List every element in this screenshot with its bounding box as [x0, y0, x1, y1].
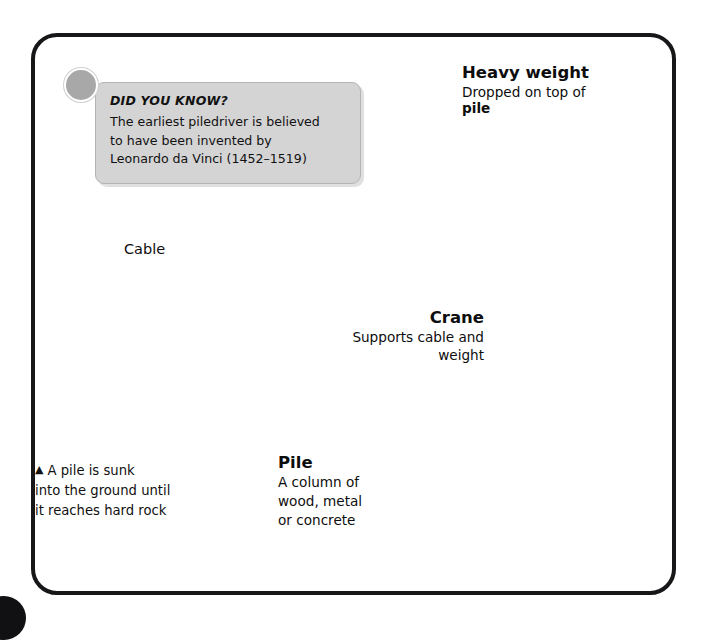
- pile-caption-line-3: it reaches hard rock: [35, 501, 221, 521]
- label-pile-sub-line-2: wood, metal: [278, 493, 408, 511]
- label-heavy-weight-sub-bold: pile: [462, 100, 490, 116]
- label-heavy-weight-heading: Heavy weight: [462, 63, 608, 83]
- did-you-know-line-1: The earliest piledriver is believed: [110, 113, 346, 132]
- pile-caption-line-2: into the ground until: [35, 481, 221, 501]
- label-pile-heading: Pile: [278, 452, 408, 473]
- triangle-marker-icon: ▲: [35, 463, 43, 476]
- label-pile: Pile A column of wood, metal or concrete: [278, 452, 408, 529]
- did-you-know-line-3: Leonardo da Vinci (1452–1519): [110, 150, 346, 169]
- label-heavy-weight-sub: Dropped on top of pile: [462, 84, 608, 117]
- did-you-know-title: DID YOU KNOW?: [110, 93, 346, 108]
- label-cable: Cable: [124, 241, 165, 257]
- label-pile-sub-line-1: A column of: [278, 474, 408, 492]
- pile-caption-line-1: ▲A pile is sunk: [35, 461, 221, 481]
- pile-caption-text-1: A pile is sunk: [47, 463, 134, 478]
- label-crane-sub-line-1: Supports cable and: [338, 329, 484, 346]
- did-you-know-panel: DID YOU KNOW? The earliest piledriver is…: [95, 82, 361, 184]
- label-heavy-weight: Heavy weight Dropped on top of pile: [462, 63, 608, 116]
- label-crane-heading: Crane: [338, 308, 484, 328]
- did-you-know-line-2: to have been invented by: [110, 132, 346, 151]
- label-crane-sub-line-2: weight: [338, 347, 484, 364]
- did-you-know-body: The earliest piledriver is believed to h…: [110, 113, 346, 169]
- label-pile-sub-line-3: or concrete: [278, 512, 408, 530]
- pile-caption: ▲A pile is sunk into the ground until it…: [35, 461, 221, 521]
- did-you-know-badge-dot: [64, 68, 98, 102]
- label-heavy-weight-sub-prefix: Dropped on top of: [462, 84, 586, 100]
- label-crane: Crane Supports cable and weight: [338, 308, 484, 363]
